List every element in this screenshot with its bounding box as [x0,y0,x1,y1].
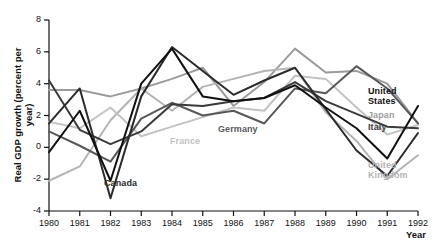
x-tick-label: 1982 [96,218,126,228]
x-tick-label: 1980 [34,218,64,228]
x-tick-label: 1989 [311,218,341,228]
x-tick-label: 1983 [126,218,156,228]
series-label-canada: Canada [104,178,137,188]
x-tick-label: 1990 [342,218,372,228]
y-tick-label: 8 [25,14,41,24]
x-tick-label: 1992 [403,218,432,228]
x-tick-label: 1985 [188,218,218,228]
series-label-united-kingdom: UnitedKingdom [368,160,408,180]
y-tick-label: 2 [25,110,41,120]
x-tick-label: 1986 [219,218,249,228]
x-tick-label: 1984 [157,218,187,228]
series-label-france: France [170,136,200,146]
chart-figure: Real GDP growth (percent per year) Year … [0,0,432,241]
y-tick-label: 6 [25,46,41,56]
chart-series-group [49,47,418,198]
x-tick-label: 1987 [249,218,279,228]
x-axis-title: Year [406,229,426,240]
y-tick-label: -2 [25,173,41,183]
series-label-united-states: UnitedStates [368,86,397,106]
series-line [49,49,418,181]
chart-axes [44,20,418,216]
x-tick-label: 1988 [280,218,310,228]
series-label-italy: Italy [368,122,387,132]
y-tick-label: -4 [25,205,41,215]
x-tick-label: 1981 [65,218,95,228]
line-chart-canvas [0,0,432,241]
y-tick-label: 4 [25,78,41,88]
x-tick-label: 1991 [372,218,402,228]
y-tick-label: 0 [25,141,41,151]
series-label-germany: Germany [218,124,258,134]
series-label-japan: Japan [368,110,395,120]
